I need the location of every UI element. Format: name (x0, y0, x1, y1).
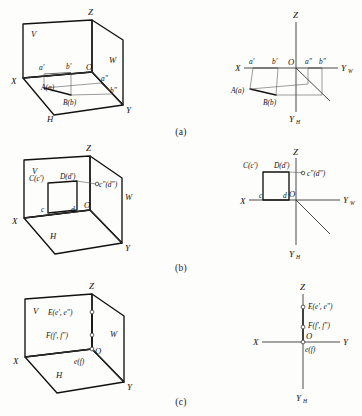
z-axis-label: Z (88, 7, 94, 17)
d-lower-label: d (71, 205, 75, 214)
yh-axis-subscript: H (295, 254, 301, 260)
projector-to-w (77, 181, 96, 184)
origin-label-proj: O (289, 189, 295, 199)
technical-drawing-figure: V H W X Y Z O a' b' a" b" A(a) B(b) (0, 0, 362, 416)
origin-label-proj: O (288, 57, 294, 67)
projector-b-to-w (71, 94, 112, 95)
z-axis-label-proj: Z (300, 282, 306, 292)
ef-lower-label-proj: e(f) (305, 345, 316, 354)
point-C-label-proj: C(c') (243, 161, 258, 170)
caption-c: (c) (0, 397, 362, 407)
w-plane-label: W (125, 192, 133, 202)
w-plane-outline (92, 20, 123, 105)
y-axis-label: Y (125, 243, 131, 253)
w-plane-outline (92, 294, 124, 382)
panel-b-pictorial: V H W X Y Z O C(c') D(d') c"(d") c d (11, 143, 133, 254)
a-double-prime-label-proj: a" (305, 57, 313, 66)
c-lower-label: c (41, 205, 45, 214)
w-plane-outline (90, 156, 122, 243)
z-axis-label-proj: Z (293, 10, 299, 20)
projector-b-front-to-h (276, 68, 278, 95)
a-double-prime-label: a" (101, 74, 109, 83)
cd-double-prime-label: c"(d") (99, 180, 118, 189)
point-D-label: D(d') (59, 172, 76, 181)
panel-c-projection: X Z Y Y H O E(e', e") F(f', f") e(f) (252, 282, 349, 404)
x-axis-label-proj: X (239, 196, 246, 206)
cd-double-prime-label-proj: c"(d") (307, 169, 326, 178)
ab-horizontal-view (250, 89, 276, 95)
ef-lower-label: e(f) (74, 357, 85, 366)
x-axis-label: X (10, 76, 17, 86)
h-plane-outline (23, 72, 123, 115)
projector-to-profile (289, 172, 303, 173)
yw-axis-label: Y (343, 195, 349, 205)
y-axis-label-proj: Y (343, 337, 349, 347)
z-axis-label: Z (86, 143, 92, 153)
point-A-label: A(a) (40, 83, 55, 92)
h-plane-label: H (55, 370, 63, 380)
v-plane-label: V (31, 29, 38, 39)
z-axis-label-proj: Z (293, 147, 299, 157)
caption-a: (a) (0, 127, 362, 137)
point-D-label-proj: D(d') (273, 161, 290, 170)
h-plane-label: H (49, 231, 57, 241)
x-axis-label-proj: X (234, 63, 241, 73)
point-A-label-proj: A(a) (230, 86, 245, 95)
panel-a-projection: X Z Y W Y H O a' b' a" b" A(a) B(b) (230, 10, 354, 125)
b-double-prime-label: b" (110, 86, 118, 95)
yw-axis-subscript: W (348, 68, 354, 74)
x-axis-pictorial (25, 349, 92, 357)
ef-lower-marker (90, 347, 94, 351)
panel-c-pictorial: V H W X Y Z O E(e', e") F(f', f") e(f) (12, 281, 133, 393)
projector-a-front-to-h (250, 68, 253, 89)
yw-axis-subscript: W (350, 200, 356, 206)
panel-a: V H W X Y Z O a' b' a" b" A(a) B(b) (0, 0, 362, 140)
a-prime-label-proj: a' (249, 57, 255, 66)
y-axis-pictorial (90, 210, 122, 243)
cd-double-prime-marker-proj (301, 171, 305, 175)
ef-lower-marker-proj (301, 340, 305, 344)
origin-label: O (84, 200, 90, 210)
origin-label: O (95, 346, 101, 356)
point-C-label: C(c') (29, 174, 44, 183)
b-prime-label-proj: b' (272, 57, 278, 66)
x-axis-pictorial (24, 210, 90, 218)
a-prime-label: a' (39, 63, 45, 72)
point-B-label-proj: B(b) (263, 98, 277, 107)
origin-label-proj: O (306, 331, 312, 341)
panel-b: V H W X Y Z O C(c') D(d') c"(d") c d X Z… (0, 140, 362, 277)
bisector-45 (296, 200, 330, 234)
caption-b: (b) (0, 263, 362, 273)
point-F-label: F(f', f") (45, 331, 68, 340)
point-B-label: B(b) (63, 98, 77, 107)
x-axis-label-proj: X (252, 337, 259, 347)
point-F-marker-proj (301, 325, 305, 329)
b-prime-label: b' (66, 62, 72, 71)
panel-b-projection: X Z Y W Y H O C(c') D(d') c"(d") c d (239, 147, 356, 260)
h-plane-outline (24, 210, 122, 254)
point-E-marker-proj (301, 305, 305, 309)
x-axis-label: X (12, 356, 19, 366)
h-plane-label: H (46, 114, 54, 124)
panel-c-canvas: V H W X Y Z O E(e', e") F(f', f") e(f) X… (0, 277, 362, 416)
projector-h-to-profile-2 (250, 84, 308, 89)
w-plane-label: W (110, 329, 118, 339)
panel-a-canvas: V H W X Y Z O a' b' a" b" A(a) B(b) (0, 0, 362, 140)
panel-c: V H W X Y Z O E(e', e") F(f', f") e(f) X… (0, 277, 362, 416)
v-plane-label: V (33, 306, 40, 316)
point-E-label-proj: E(e', e") (307, 302, 333, 311)
origin-label: O (86, 62, 92, 72)
w-plane-label: W (109, 55, 117, 65)
yh-axis-label: Y (289, 114, 295, 124)
point-E-marker (90, 310, 94, 314)
panel-a-pictorial: V H W X Y Z O a' b' a" b" A(a) B(b) (10, 7, 132, 124)
yh-axis-label: Y (289, 249, 295, 259)
z-axis-label: Z (89, 281, 95, 291)
yw-axis-label: Y (341, 63, 347, 73)
yh-axis-subscript: H (295, 119, 301, 125)
x-axis-label: X (11, 216, 18, 226)
y-axis-label: Y (127, 382, 133, 392)
y-axis-label: Y (126, 105, 132, 115)
b-double-prime-label-proj: b" (319, 57, 327, 66)
point-F-marker (90, 333, 94, 337)
